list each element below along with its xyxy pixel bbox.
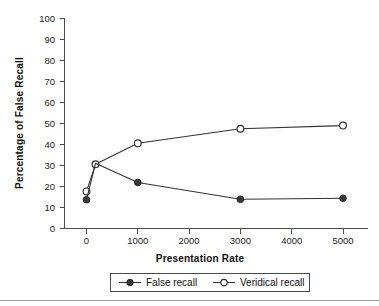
x-tick-label: 3000 [230, 235, 251, 246]
x-axis-title: Presentation Rate [156, 253, 245, 264]
data-point [83, 196, 90, 203]
x-tick-label: 1000 [127, 235, 148, 246]
x-tick-label: 4000 [281, 235, 302, 246]
y-tick-label: 40 [44, 139, 55, 150]
x-tick-label: 5000 [332, 235, 353, 246]
data-point [134, 140, 141, 147]
y-tick-label: 100 [39, 13, 55, 24]
y-tick-label: 50 [44, 118, 55, 129]
y-tick-label: 0 [50, 223, 55, 234]
legend-label: False recall [146, 277, 197, 288]
y-tick-label: 60 [44, 97, 55, 108]
data-point [237, 125, 244, 132]
chart-figure: 100 90 80 70 60 50 40 30 20 10 0 Percent… [0, 0, 379, 306]
chart-legend: False recall Veridical recall [111, 274, 310, 292]
data-point [340, 122, 347, 129]
y-tick-label: 70 [44, 76, 55, 87]
data-point [340, 195, 347, 202]
y-tick-label: 90 [44, 34, 55, 45]
data-point [237, 196, 244, 203]
x-tick-label: 2000 [179, 235, 200, 246]
line-chart: 100 90 80 70 60 50 40 30 20 10 0 Percent… [0, 0, 379, 306]
filled-circle-icon [127, 279, 133, 285]
y-tick-label: 80 [44, 55, 55, 66]
y-tick-label: 30 [44, 160, 55, 171]
x-tick-label: 0 [84, 235, 89, 246]
y-tick-label: 10 [44, 202, 55, 213]
data-point [135, 179, 142, 186]
legend-label: Veridical recall [240, 277, 304, 288]
open-circle-icon [221, 279, 227, 285]
y-axis-title: Percentage of False Recall [14, 57, 25, 189]
y-tick-label: 20 [44, 181, 55, 192]
